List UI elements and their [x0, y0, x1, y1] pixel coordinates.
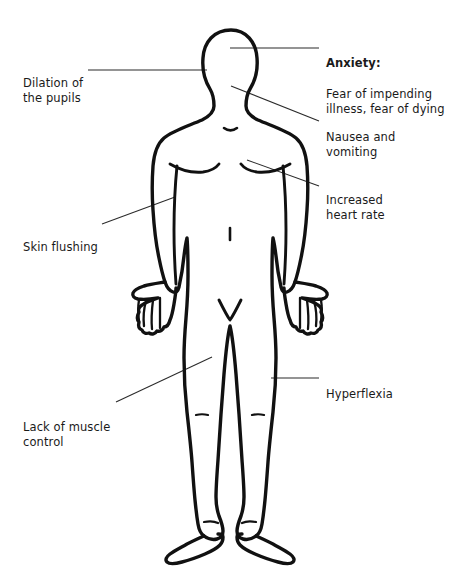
- left-knee: [196, 414, 208, 415]
- right-knee: [252, 414, 264, 415]
- right-foot-ankle-crease: [242, 521, 256, 523]
- inner-arm-right: [283, 166, 286, 284]
- label-skin-flushing: Skin flushing: [23, 224, 133, 271]
- label-text: Increased heart rate: [326, 193, 426, 224]
- label-text: Hyperflexia: [326, 387, 436, 403]
- label-lead-text: Anxiety:: [326, 56, 452, 72]
- human-body-outline: [133, 30, 328, 564]
- leader-line-nausea: [231, 86, 319, 121]
- label-dilation-of-the-pupils: Dilation of the pupils: [23, 60, 113, 122]
- label-hyperflexia: Hyperflexia: [326, 371, 436, 418]
- label-text: Nausea and vomiting: [326, 130, 436, 161]
- label-increased-heart-rate: Increased heart rate: [326, 177, 426, 239]
- leader-line-skin-flushing: [102, 197, 175, 224]
- groin-line: [219, 300, 241, 320]
- label-text: Fear of impending illness, fear of dying: [326, 87, 452, 118]
- label-nausea-and-vomiting: Nausea and vomiting: [326, 114, 436, 176]
- label-text: Lack of muscle control: [23, 420, 143, 451]
- leader-line-lack-of-muscle-control: [116, 357, 212, 402]
- sternal-notch: [224, 128, 237, 130]
- label-text: Skin flushing: [23, 240, 133, 256]
- diagram-page: Dilation of the pupils Skin flushing Lac…: [0, 0, 458, 579]
- label-text: Dilation of the pupils: [23, 76, 113, 107]
- label-lack-of-muscle-control: Lack of muscle control: [23, 404, 143, 466]
- left-foot-ankle-crease: [204, 521, 218, 523]
- inner-arm-left: [174, 166, 177, 284]
